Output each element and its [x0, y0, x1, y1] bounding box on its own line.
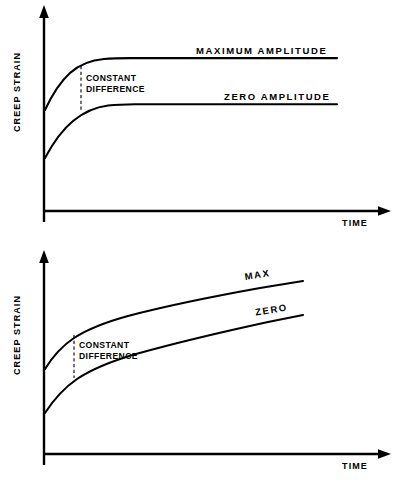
top-label-zero: ZERO AMPLITUDE	[224, 91, 331, 102]
top-y-axis	[39, 5, 49, 222]
bottom-label-zero: ZERO	[254, 302, 288, 318]
bottom-x-axis	[44, 449, 391, 458]
top-x-axis	[44, 206, 391, 215]
top-x-axis-title: TIME	[342, 218, 368, 228]
top-panel: CREEP STRAIN TIME MAXIMUM AMPLITUDE ZERO…	[0, 0, 402, 243]
bottom-x-axis-title: TIME	[342, 461, 368, 471]
bottom-x-axis-arrow-icon	[378, 449, 391, 458]
top-annotation-line1: CONSTANT	[86, 73, 137, 83]
bottom-label-max: MAX	[244, 267, 271, 282]
bottom-annotation-line2: DIFFERENCE	[79, 351, 138, 361]
bottom-annotation-line1: CONSTANT	[79, 340, 130, 350]
bottom-y-axis	[39, 250, 49, 465]
top-y-axis-title: CREEP STRAIN	[12, 52, 22, 132]
top-x-axis-arrow-icon	[378, 206, 391, 215]
bottom-curve-zero	[45, 315, 303, 413]
bottom-y-axis-title: CREEP STRAIN	[12, 295, 22, 375]
top-curve-zero	[45, 104, 337, 158]
creep-strain-figure: CREEP STRAIN TIME MAXIMUM AMPLITUDE ZERO…	[0, 0, 402, 486]
bottom-panel: CREEP STRAIN TIME MAX ZERO CONSTANT DIFF…	[0, 243, 402, 486]
bottom-y-axis-arrow-icon	[39, 250, 49, 263]
top-annotation-line2: DIFFERENCE	[86, 84, 145, 94]
top-y-axis-arrow-icon	[39, 5, 49, 18]
top-label-max: MAXIMUM AMPLITUDE	[196, 45, 327, 56]
